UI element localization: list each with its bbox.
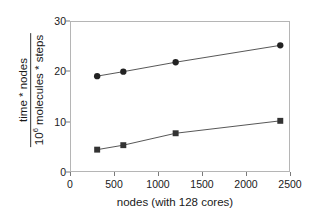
x-axis-tick-mark: [202, 172, 203, 176]
x-axis-tick-label: 1000: [146, 178, 169, 190]
y-axis-denominator-exponent: 6: [31, 128, 40, 132]
data-point-square-marker: [277, 118, 283, 124]
series-upper-series: [94, 42, 283, 79]
data-point-circle-marker: [94, 73, 100, 79]
data-point-square-marker: [94, 147, 100, 153]
data-point-circle-marker: [120, 69, 126, 75]
x-axis-tick-labels: 05001000150020002500: [70, 178, 290, 192]
y-axis-tick-labels: 0102030: [42, 21, 66, 172]
data-point-square-marker: [173, 130, 179, 136]
data-point-circle-marker: [277, 42, 283, 48]
plot-series-svg: [71, 22, 289, 171]
y-axis-label-rotated: time * nodes 106 molecules * steps: [17, 33, 45, 147]
data-point-square-marker: [120, 142, 126, 148]
x-axis-tick-label: 500: [105, 178, 123, 190]
plot-area: [70, 21, 290, 172]
x-axis-tick-label: 1500: [190, 178, 213, 190]
y-axis-tick-label: 20: [44, 65, 66, 77]
x-axis-tick-label: 2500: [278, 178, 301, 190]
x-axis-label: nodes (with 128 cores): [40, 196, 310, 208]
y-axis-label-numerator: time * nodes: [17, 56, 30, 124]
data-point-circle-marker: [172, 59, 178, 65]
chart-figure: time * nodes 106 molecules * steps 01020…: [0, 0, 317, 222]
x-axis-tick-mark: [114, 172, 115, 176]
y-axis-tick-label: 10: [44, 116, 66, 128]
series-lower-series: [94, 118, 283, 153]
x-axis-tick-mark: [70, 172, 71, 176]
y-axis-tick-label: 30: [44, 15, 66, 27]
x-axis-tick-marks: [70, 172, 290, 177]
y-axis-tick-label: 0: [44, 166, 66, 178]
x-axis-tick-mark: [246, 172, 247, 176]
x-axis-tick-mark: [158, 172, 159, 176]
x-axis-tick-label: 0: [67, 178, 73, 190]
x-axis-tick-mark: [290, 172, 291, 176]
x-axis-tick-label: 2000: [234, 178, 257, 190]
